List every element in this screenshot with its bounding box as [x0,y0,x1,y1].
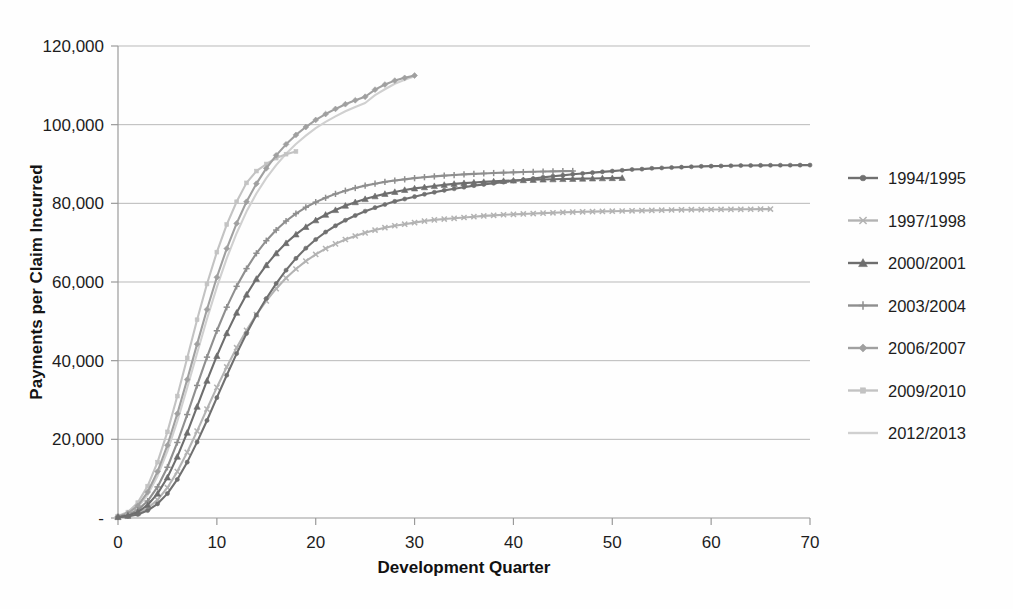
series-marker-circle [146,508,150,512]
series-marker-circle [126,514,130,518]
series-marker-circle [561,173,565,177]
series-marker-circle [254,313,258,317]
legend-entry-1994-1995[interactable]: 1994/1995 [848,169,966,187]
series-marker-circle [590,171,594,175]
legend-entry-label: 2003/2004 [888,297,966,315]
y-axis-tick-label: - [98,509,104,528]
series-marker-circle [679,165,683,169]
legend-entry-2012-2013[interactable]: 2012/2013 [848,424,966,442]
series-marker-plus [491,170,497,176]
x-axis-tick-label: 40 [504,533,523,552]
series-marker-plus [520,169,526,175]
series-marker-circle [650,166,654,170]
series-marker-x [283,275,288,280]
series-2009-2010 [116,149,298,517]
series-marker-square [245,181,249,185]
x-axis-tick-label: 30 [405,533,424,552]
series-line [118,178,622,517]
series-marker-circle [689,165,693,169]
series-marker-square [166,430,170,434]
series-marker-circle [274,282,278,286]
legend-entry-label: 2009/2010 [888,382,966,400]
series-marker-circle [205,418,209,422]
legend-entry-2000-2001[interactable]: 2000/2001 [848,254,966,272]
series-marker-plus [451,172,457,178]
series-marker-circle [422,192,426,196]
series-marker-circle [860,175,866,181]
x-axis-tick-label: 0 [113,533,122,552]
series-marker-circle [195,440,199,444]
series-marker-plus [352,185,358,191]
series-marker-plus [471,171,477,177]
series-marker-plus [402,176,408,182]
series-marker-triangle [214,353,220,359]
series-marker-plus [342,188,348,194]
series-marker-circle [739,164,743,168]
series-marker-plus [500,170,506,176]
series-marker-circle [640,167,644,171]
y-axis-tick-label: 120,000 [43,37,104,56]
series-marker-square [860,388,865,393]
series-marker-circle [403,197,407,201]
series-marker-plus [540,168,546,174]
series-marker-circle [452,187,456,191]
series-marker-plus [510,169,516,175]
series-marker-circle [284,268,288,272]
x-axis-tick-label: 50 [603,533,622,552]
series-marker-circle [393,199,397,203]
y-axis-title: Payments per Claim Incurred [27,164,46,399]
y-axis-tick-label: 60,000 [52,273,104,292]
series-marker-plus [530,169,536,175]
series-marker-circle [788,163,792,167]
series-marker-circle [116,515,120,519]
series-marker-circle [244,331,248,335]
series-marker-square [185,356,189,360]
y-axis-tick-label: 40,000 [52,352,104,371]
series-marker-circle [610,169,614,173]
series-marker-circle [571,172,575,176]
series-line [118,151,296,516]
series-marker-plus [421,174,427,180]
payments-per-claim-incurred-chart: -20,00040,00060,00080,000100,000120,000 … [0,0,1013,609]
series-marker-circle [324,230,328,234]
series-marker-triangle [174,454,180,460]
legend-entry-1997-1998[interactable]: 1997/1998 [848,212,966,230]
series-marker-plus [214,328,220,334]
series-marker-circle [511,179,515,183]
series-marker-square [294,149,298,153]
series-marker-circle [699,164,703,168]
series-marker-circle [353,213,357,217]
series-marker-circle [521,178,525,182]
series-marker-plus [322,195,328,201]
series-marker-circle [314,237,318,241]
series-marker-circle [225,373,229,377]
series-marker-circle [373,206,377,210]
x-axis-title: Development Quarter [378,558,551,577]
series-marker-plus [382,179,388,185]
series-marker-circle [155,502,159,506]
series-2000-2001 [115,175,625,520]
series-marker-circle [294,256,298,260]
series-marker-x [293,266,298,271]
series-marker-circle [383,202,387,206]
series-marker-plus [431,173,437,179]
legend-entry-2003-2004[interactable]: 2003/2004 [848,297,966,315]
chart-gridlines [118,46,810,439]
series-marker-circle [630,167,634,171]
x-axis-tick-labels: 010203040506070 [113,533,819,552]
series-marker-circle [482,182,486,186]
series-marker-circle [432,190,436,194]
legend-entry-2009-2010[interactable]: 2009/2010 [848,382,966,400]
series-marker-circle [808,163,812,167]
series-marker-circle [660,166,664,170]
legend-entry-2006-2007[interactable]: 2006/2007 [848,339,966,357]
chart-page: -20,00040,00060,00080,000100,000120,000 … [0,0,1013,609]
series-marker-plus [392,177,398,183]
series-marker-plus [481,170,487,176]
series-marker-square [215,250,219,254]
series-marker-circle [551,174,555,178]
series-marker-circle [778,163,782,167]
series-marker-circle [413,195,417,199]
series-marker-circle [749,163,753,167]
series-marker-circle [581,171,585,175]
